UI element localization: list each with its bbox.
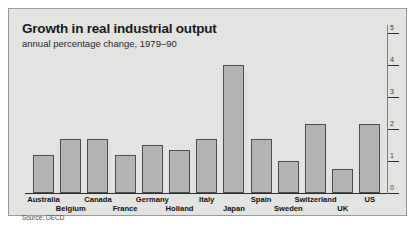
bar-germany bbox=[142, 145, 163, 193]
y-tick-label-2: 2 bbox=[390, 120, 394, 128]
y-tick-label-3: 3 bbox=[390, 88, 394, 96]
bar-sweden bbox=[278, 161, 299, 193]
bar-japan bbox=[223, 65, 244, 193]
x-label-uk: UK bbox=[303, 204, 383, 213]
y-tick-label-5: 5 bbox=[390, 24, 394, 32]
bar-italy bbox=[196, 139, 217, 193]
bar-france bbox=[115, 155, 136, 193]
bar-canada bbox=[87, 139, 108, 193]
y-tick-1 bbox=[388, 161, 399, 162]
x-label-us: US bbox=[330, 195, 410, 204]
plot-area bbox=[25, 25, 387, 193]
bar-belgium bbox=[60, 139, 81, 193]
bar-switzerland bbox=[305, 124, 326, 193]
y-tick-label-0: 0 bbox=[390, 184, 394, 192]
y-tick-3 bbox=[388, 97, 399, 98]
y-tick-2 bbox=[388, 129, 399, 130]
y-tick-4 bbox=[388, 65, 399, 66]
chart-figure: Growth in real industrial output annual … bbox=[0, 0, 415, 232]
source-note: Source: OECD bbox=[22, 214, 64, 221]
bar-series bbox=[25, 25, 387, 193]
y-axis-line bbox=[387, 25, 388, 194]
bar-uk bbox=[332, 169, 353, 193]
bar-holland bbox=[169, 150, 190, 193]
bar-australia bbox=[33, 155, 54, 193]
chart-panel: Growth in real industrial output annual … bbox=[8, 8, 407, 216]
bar-spain bbox=[251, 139, 272, 193]
y-tick-0 bbox=[388, 193, 399, 194]
x-axis-line bbox=[25, 193, 399, 194]
y-tick-5 bbox=[388, 33, 399, 34]
bar-us bbox=[359, 124, 380, 193]
y-tick-label-1: 1 bbox=[390, 152, 394, 160]
y-tick-label-4: 4 bbox=[390, 56, 394, 64]
